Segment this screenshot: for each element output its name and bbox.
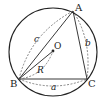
- label-A: A: [74, 2, 83, 13]
- radius-OB: [19, 51, 53, 79]
- triangle-circumcircle-figure: A B C O R a b c: [0, 0, 107, 107]
- diagram-canvas: A B C O R a b c: [0, 0, 107, 107]
- label-C: C: [88, 78, 96, 89]
- label-R: R: [36, 65, 44, 75]
- label-O: O: [54, 41, 61, 51]
- side-AB: [19, 11, 73, 79]
- label-a: a: [51, 82, 56, 92]
- label-b: b: [85, 38, 91, 48]
- label-c: c: [34, 34, 39, 44]
- label-B: B: [10, 78, 17, 89]
